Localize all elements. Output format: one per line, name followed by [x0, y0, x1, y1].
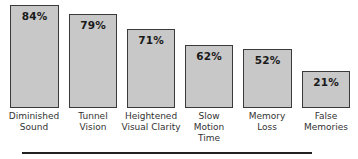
category-label-memory-loss: Memory Loss	[236, 111, 298, 133]
bar-value-label: 62%	[186, 50, 232, 62]
category-label-heightened-visual-clarity: Heightened Visual Clarity	[120, 111, 182, 133]
bar-value-label: 84%	[11, 10, 58, 22]
bar-slow-motion-time: 62%	[185, 45, 233, 108]
category-label-tunnel-vision: Tunnel Vision	[62, 111, 124, 133]
category-label-diminished-sound: Diminished Sound	[3, 111, 65, 133]
bar-memory-loss: 52%	[243, 49, 292, 108]
bar-value-label: 52%	[244, 54, 291, 66]
bar-false-memories: 21%	[302, 71, 350, 108]
bar-tunnel-vision: 79%	[69, 14, 117, 108]
bar-diminished-sound: 84%	[10, 5, 59, 108]
bar-value-label: 71%	[128, 34, 174, 46]
category-label-slow-motion-time: Slow Motion Time	[178, 111, 240, 144]
bar-value-label: 21%	[303, 76, 349, 88]
category-label-false-memories: False Memories	[295, 111, 357, 133]
bar-heightened-visual-clarity: 71%	[127, 29, 175, 108]
baseline-rule	[22, 152, 312, 154]
bar-chart: 84% 79% 71% 62% 52% 21% Diminished Sound…	[0, 0, 358, 159]
bar-value-label: 79%	[70, 19, 116, 31]
